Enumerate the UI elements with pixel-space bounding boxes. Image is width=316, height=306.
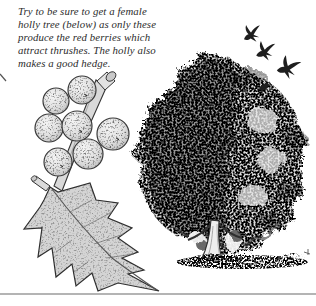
holly-sprig-illustration bbox=[24, 70, 159, 291]
stub-twig bbox=[30, 175, 50, 191]
book-page: Try to be sure to get a female holly tre… bbox=[0, 0, 316, 306]
bird-icon bbox=[255, 40, 277, 62]
caption-line: holly tree (below) as only these bbox=[18, 18, 188, 31]
ground-shadow bbox=[176, 253, 308, 269]
berry-stipple bbox=[36, 77, 128, 175]
caption-line: makes a good hedge. bbox=[18, 57, 188, 70]
berry-cluster bbox=[35, 76, 129, 176]
holly-tree-illustration bbox=[138, 54, 310, 269]
caption-line: Try to be sure to get a female bbox=[18, 5, 188, 18]
caption-line: attract thrushes. The holly also bbox=[18, 44, 188, 57]
holly-leaf bbox=[24, 183, 159, 291]
caption-text: Try to be sure to get a female holly tre… bbox=[18, 5, 188, 70]
page-edge-mark bbox=[0, 74, 6, 81]
bird-icon bbox=[276, 54, 302, 80]
caption-line: produce the red berries which bbox=[18, 31, 188, 44]
bird-icon bbox=[241, 22, 264, 45]
twig-marks bbox=[304, 249, 310, 255]
